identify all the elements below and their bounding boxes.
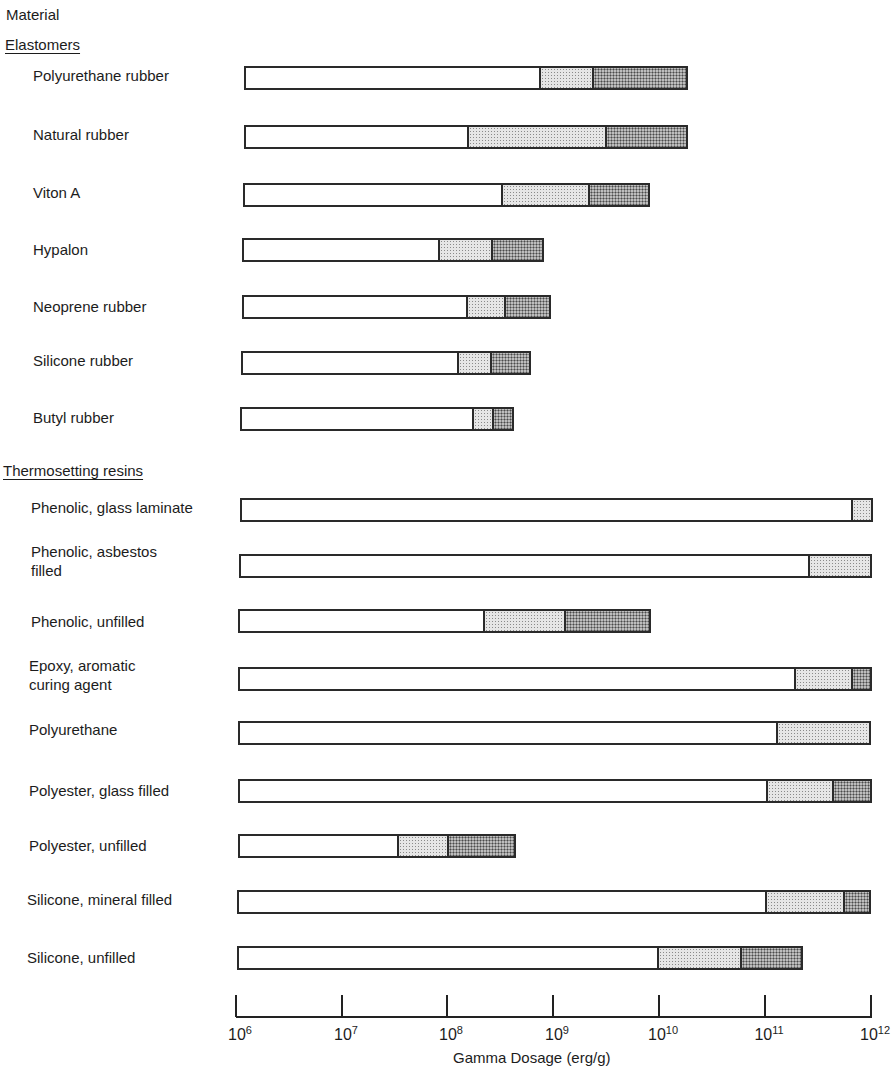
dosage-bar [239,554,872,578]
x-tick [341,995,343,1017]
segment-no-effect [242,500,851,520]
segment-moderate-effect [466,297,504,317]
segment-moderate-effect [467,127,605,147]
segment-moderate-effect [539,68,592,88]
x-tick [764,995,766,1017]
x-tick [235,995,237,1017]
material-label: Epoxy, aromatic curing agent [29,656,135,694]
material-label: Phenolic, glass laminate [31,498,193,517]
dosage-bar [240,498,873,522]
material-label: Polyester, unfilled [29,836,147,855]
dosage-bar [238,779,872,803]
dosage-bar [243,183,650,207]
segment-severe-effect [851,669,870,689]
material-label: Polyurethane rubber [33,66,169,85]
dosage-bar [241,351,531,375]
dosage-bar [238,609,651,633]
dosage-bar [242,295,551,319]
segment-no-effect [240,723,776,743]
segment-no-effect [240,611,483,631]
material-label: Polyester, glass filled [29,781,169,800]
dosage-bar [244,125,688,149]
material-label: Hypalon [33,240,88,259]
segment-no-effect [240,669,794,689]
x-axis-label: Gamma Dosage (erg/g) [453,1049,611,1066]
material-label: Butyl rubber [33,408,114,427]
tick-exponent: 9 [563,1024,569,1036]
segment-severe-effect [504,297,549,317]
segment-severe-effect [447,836,514,856]
x-tick-label: 1010 [648,1024,678,1044]
material-label: Phenolic, asbestos filled [31,542,157,580]
segment-moderate-effect [483,611,564,631]
tick-base: 10 [860,1026,878,1043]
x-tick [446,995,448,1017]
segment-moderate-effect [776,723,869,743]
segment-severe-effect [832,781,870,801]
x-tick-label: 1012 [860,1024,890,1044]
material-label: Polyurethane [29,720,117,739]
x-tick [552,995,554,1017]
segment-no-effect [239,892,765,912]
tick-exponent: 8 [457,1024,463,1036]
segment-no-effect [241,556,808,576]
material-label: Silicone rubber [33,351,133,370]
dosage-bar [244,66,688,90]
segment-no-effect [245,185,501,205]
material-label: Viton A [33,183,80,202]
segment-no-effect [246,127,467,147]
x-tick-label: 109 [545,1024,569,1044]
x-tick-label: 107 [334,1024,358,1044]
segment-moderate-effect [457,353,490,373]
segment-moderate-effect [794,669,851,689]
segment-no-effect [244,297,466,317]
material-label: Phenolic, unfilled [31,612,144,631]
segment-moderate-effect [438,240,491,260]
tick-base: 10 [228,1026,246,1043]
dosage-bar [237,946,803,970]
tick-exponent: 7 [352,1024,358,1036]
x-tick [870,995,872,1017]
tick-base: 10 [439,1026,457,1043]
material-label: Silicone, mineral filled [27,890,172,909]
x-tick [658,995,660,1017]
x-tick-label: 106 [228,1024,252,1044]
tick-exponent: 10 [666,1024,678,1036]
material-label: Neoprene rubber [33,297,146,316]
segment-no-effect [244,240,438,260]
dosage-bar [242,238,544,262]
x-axis-line [236,1016,872,1018]
tick-exponent: 12 [878,1024,890,1036]
segment-severe-effect [843,892,869,912]
tick-exponent: 6 [246,1024,252,1036]
segment-severe-effect [564,611,649,631]
segment-moderate-effect [472,409,492,429]
segment-moderate-effect [808,556,870,576]
segment-severe-effect [605,127,686,147]
segment-moderate-effect [501,185,588,205]
dosage-bar [238,721,871,745]
material-label: Natural rubber [33,125,129,144]
segment-severe-effect [588,185,648,205]
segment-moderate-effect [851,500,871,520]
segment-no-effect [242,409,472,429]
segment-no-effect [240,836,397,856]
x-tick-label: 1011 [754,1024,783,1044]
dosage-bar [238,667,872,691]
group-label-thermosetting-resins: Thermosetting resins [3,462,143,479]
segment-moderate-effect [397,836,447,856]
segment-severe-effect [492,409,512,429]
segment-moderate-effect [657,948,740,968]
group-label-elastomers: Elastomers [5,36,80,53]
segment-severe-effect [491,240,542,260]
segment-severe-effect [592,68,686,88]
dosage-bar [238,834,516,858]
tick-base: 10 [334,1026,352,1043]
tick-base: 10 [648,1026,666,1043]
segment-severe-effect [490,353,529,373]
dosage-bar [240,407,514,431]
y-axis-title: Material [6,6,59,23]
tick-base: 10 [545,1026,563,1043]
segment-severe-effect [740,948,801,968]
segment-moderate-effect [766,781,832,801]
